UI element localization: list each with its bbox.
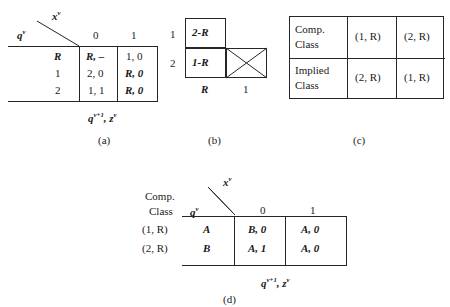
chart-b-cell-1-0-label: 1-R [192, 57, 209, 68]
table-d-right-edge [346, 216, 347, 266]
table-d-cell-0-0: B, 0 [248, 224, 266, 235]
table-a-cell-1-1: R, 0 [125, 68, 143, 79]
table-c-row-0-header-line-2: Class [295, 39, 319, 50]
table-c-cell-0-1: (2, R) [404, 31, 430, 42]
table-d-col-divider-left [234, 216, 235, 266]
table-d-class-label-1: (2, R) [142, 243, 168, 254]
table-a-top-rule [8, 46, 158, 47]
table-a-row-label-1: 1 [55, 68, 61, 79]
table-a-row-label-0: R [54, 51, 61, 62]
table-c-cell-1-0: (2, R) [355, 72, 381, 83]
chart-b-cell-0-0-label: 2-R [192, 27, 209, 38]
table-a-col-divider-mid [117, 46, 118, 102]
caption-c: (c) [353, 134, 365, 146]
table-d-state-label-1: B [203, 243, 210, 254]
table-d-cell-1-0: A, 1 [248, 243, 266, 254]
table-a-cell-2-1: R, 0 [125, 85, 143, 96]
table-a-cell-2-0: 1, 1 [88, 85, 105, 96]
table-c-cell-1-1: (1, R) [404, 72, 430, 83]
subfigure-d: Comp. Class xv qv 0 1 (1, R) (2, R) A B … [120, 165, 390, 307]
table-c-row-1-header-line-2: Class [295, 80, 319, 91]
table-d-class-label-0: (1, R) [142, 224, 168, 235]
table-a-column-header-0: 0 [93, 30, 99, 41]
table-d-column-header-0: 0 [260, 205, 266, 216]
table-d-bottom-label: qv+1, zv [261, 277, 290, 289]
table-a-right-edge [157, 46, 158, 102]
subfigure-c: Comp. Class (1, R) (2, R) Implied Class … [278, 0, 450, 150]
chart-b-col-label-1: 1 [243, 84, 249, 95]
chart-b-col-label-0: R [201, 84, 208, 95]
table-d-state-label-0: A [203, 224, 210, 235]
table-d-column-header-1: 1 [310, 205, 316, 216]
table-d-col-divider-mid [285, 216, 286, 266]
caption-a: (a) [98, 134, 110, 146]
chart-b-row-label-0: 1 [170, 29, 176, 40]
table-a-cell-0-0: R, – [86, 51, 104, 62]
table-c-row-divider [289, 58, 445, 59]
chart-b-row-label-1: 2 [170, 58, 176, 69]
caption-b: (b) [208, 134, 221, 146]
table-d-header-diagonal-ext [120, 165, 390, 307]
table-d-bottom-rule [182, 265, 347, 266]
subfigure-a: xv qv 0 1 R 1 2 R, – 2, 0 1, 1 1, 0 R, 0… [0, 0, 180, 150]
chart-b-cell-1-1-cross-icon [226, 48, 267, 78]
table-d-top-rule [182, 216, 347, 217]
table-a-cell-1-0: 2, 0 [87, 68, 104, 79]
table-d-cell-0-1: A, 0 [301, 224, 319, 235]
table-a-bottom-label: qv+1, zv [88, 112, 117, 124]
caption-d: (d) [223, 293, 236, 305]
table-a-row-label-2: 2 [55, 85, 61, 96]
table-c-row-0-header-line-1: Comp. [295, 24, 325, 35]
table-d-cell-1-1: A, 0 [301, 243, 319, 254]
table-c-row-1-header-line-1: Implied [295, 65, 329, 76]
table-c-cell-0-0: (1, R) [355, 31, 381, 42]
table-a-col-divider-left [79, 46, 80, 102]
subfigure-b: 1 2 2-R 1-R R 1 (b) [168, 0, 278, 150]
table-a-bottom-rule [8, 101, 158, 102]
table-a-column-header-1: 1 [131, 30, 137, 41]
table-a-cell-0-1: 1, 0 [126, 51, 143, 62]
